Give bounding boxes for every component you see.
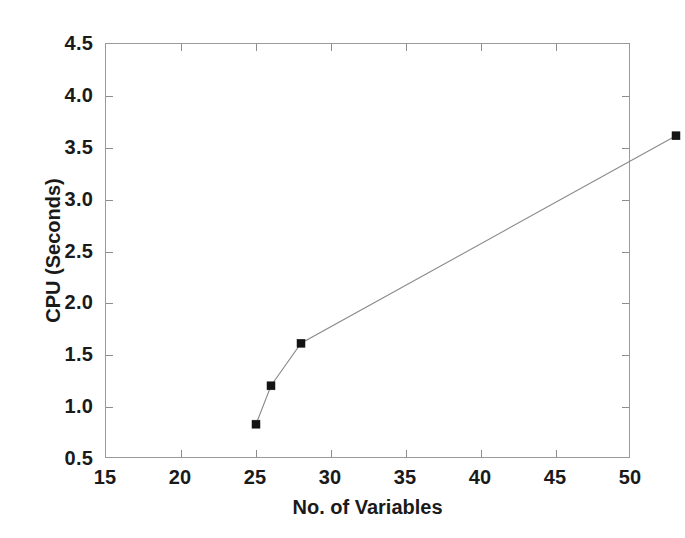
x-axis-tick [181, 450, 182, 457]
y-axis-tick [622, 200, 629, 201]
series-data-point [297, 339, 305, 347]
x-axis-tick-label: 30 [319, 466, 342, 489]
x-axis-title: No. of Variables [105, 496, 630, 519]
y-axis-tick-label: 1.0 [65, 395, 93, 418]
y-axis-tick [106, 407, 113, 408]
x-axis-tick [256, 44, 257, 51]
x-axis-tick-labels: 1520253035404550 [105, 466, 630, 492]
y-axis-tick-label: 1.5 [65, 343, 93, 366]
x-axis-tick [181, 44, 182, 51]
y-axis-tick [106, 303, 113, 304]
y-axis-tick [622, 407, 629, 408]
x-axis-tick-label: 40 [469, 466, 492, 489]
x-axis-tick-label: 50 [619, 466, 642, 489]
y-axis-tick [106, 96, 113, 97]
series-data-point [267, 382, 275, 390]
y-axis-tick-label: 3.5 [65, 135, 93, 158]
y-axis-tick-label: 3.0 [65, 187, 93, 210]
y-axis-tick-label: 4.5 [65, 32, 93, 55]
y-axis-tick [622, 148, 629, 149]
y-axis-tick [106, 252, 113, 253]
y-axis-tick [106, 355, 113, 356]
y-axis-tick [622, 96, 629, 97]
x-axis-tick [256, 450, 257, 457]
y-axis-tick [622, 355, 629, 356]
x-axis-tick-label: 35 [394, 466, 417, 489]
series-data-point [252, 420, 260, 428]
data-series-layer [211, 87, 685, 502]
x-axis-tick-label: 45 [544, 466, 567, 489]
y-axis-tick [622, 252, 629, 253]
x-axis-tick [331, 450, 332, 457]
x-axis-tick [406, 44, 407, 51]
x-axis-tick [481, 450, 482, 457]
x-axis-tick [481, 44, 482, 51]
y-axis-tick-label: 2.0 [65, 291, 93, 314]
series-data-point [672, 132, 680, 140]
x-axis-tick-label: 15 [94, 466, 117, 489]
y-axis-tick [106, 200, 113, 201]
x-axis-tick [556, 44, 557, 51]
x-axis-tick [406, 450, 407, 457]
x-axis-tick-label: 25 [244, 466, 267, 489]
y-axis-tick-label: 2.5 [65, 239, 93, 262]
x-axis-tick [331, 44, 332, 51]
x-axis-tick [556, 450, 557, 457]
y-axis-tick-label: 0.5 [65, 447, 93, 470]
x-axis-tick-label: 20 [169, 466, 192, 489]
y-axis-title: CPU (Seconds) [38, 43, 68, 458]
y-axis-tick [622, 303, 629, 304]
plot-area [105, 43, 630, 458]
y-axis-tick-label: 4.0 [65, 83, 93, 106]
y-axis-tick [106, 148, 113, 149]
series-line [256, 136, 676, 424]
